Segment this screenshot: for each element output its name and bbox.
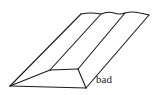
diagram-label: bad: [96, 74, 112, 85]
bevel-right-edge: [78, 69, 86, 88]
left-outer-edge: [10, 14, 81, 86]
ridge-line-2: [78, 13, 125, 69]
broken-top-edge: [81, 12, 149, 15]
base-edge: [10, 86, 86, 88]
bevel-top-edge: [50, 69, 78, 70]
bevel-lower-edge: [10, 70, 50, 86]
bevel-edge-drawing: [0, 0, 153, 95]
ridge-line-1: [50, 14, 101, 70]
